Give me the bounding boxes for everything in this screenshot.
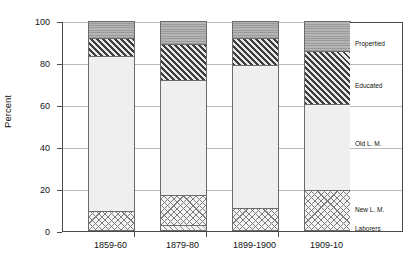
segment-new-lm-1859-60[interactable] <box>88 211 135 231</box>
y-tick-label-40: 40 <box>40 144 50 153</box>
y-axis-title: Percent <box>2 52 13 172</box>
x-tick-mark-2 <box>206 232 207 237</box>
bar-1899-1900[interactable] <box>232 21 279 231</box>
legend-item-new-lm[interactable]: New L. M. <box>355 206 384 213</box>
segment-new-lm-1909-10[interactable] <box>304 190 351 231</box>
y-axis: 100 80 60 40 20 0 Percent <box>0 0 62 254</box>
segment-new-lm-1879-80[interactable] <box>160 195 207 225</box>
x-tick-mark-1 <box>134 232 135 237</box>
legend-divider-2 <box>350 106 402 107</box>
segment-laborers-1879-80[interactable] <box>160 225 207 231</box>
segment-educated-1859-60[interactable] <box>88 38 135 56</box>
segment-propertied-1879-80[interactable] <box>160 21 207 44</box>
y-tick-label-0: 0 <box>45 228 50 237</box>
x-tick-label-1879-80: 1879-80 <box>166 240 199 250</box>
x-tick-label-1909-10: 1909-10 <box>310 240 343 250</box>
bar-1859-60[interactable] <box>88 21 135 231</box>
segment-educated-1909-10[interactable] <box>304 51 351 104</box>
segment-educated-1899-1900[interactable] <box>232 38 279 65</box>
segment-old-lm-1899-1900[interactable] <box>232 65 279 208</box>
legend-divider-1 <box>350 64 402 65</box>
y-tick-label-100: 100 <box>35 18 50 27</box>
segment-educated-1879-80[interactable] <box>160 44 207 80</box>
legend-item-old-lm[interactable]: Old L. M. <box>355 140 381 147</box>
bar-1879-80[interactable] <box>160 21 207 231</box>
y-tick-mark-0 <box>57 232 62 233</box>
segment-old-lm-1859-60[interactable] <box>88 56 135 212</box>
y-tick-label-60: 60 <box>40 102 50 111</box>
legend-divider-3 <box>350 148 402 149</box>
legend-divider-4 <box>350 190 402 191</box>
segment-old-lm-1879-80[interactable] <box>160 80 207 196</box>
segment-propertied-1909-10[interactable] <box>304 21 351 51</box>
y-tick-label-80: 80 <box>40 60 50 69</box>
legend: Propertied Educated Old L. M. New L. M. … <box>350 22 403 232</box>
segment-propertied-1859-60[interactable] <box>88 21 135 38</box>
chart-container: 100 80 60 40 20 0 Percent <box>0 0 404 278</box>
legend-item-propertied[interactable]: Propertied <box>355 40 385 47</box>
x-tick-label-1859-60: 1859-60 <box>94 240 127 250</box>
x-tick-mark-3 <box>278 232 279 237</box>
x-tick-label-1899-1900: 1899-1900 <box>233 240 276 250</box>
legend-item-laborers[interactable]: Laborers <box>355 225 381 232</box>
segment-new-lm-1899-1900[interactable] <box>232 208 279 231</box>
y-tick-label-20: 20 <box>40 186 50 195</box>
plot-area <box>62 22 350 232</box>
segment-propertied-1899-1900[interactable] <box>232 21 279 38</box>
segment-old-lm-1909-10[interactable] <box>304 104 351 190</box>
bar-1909-10[interactable] <box>304 21 351 231</box>
legend-item-educated[interactable]: Educated <box>355 82 382 89</box>
